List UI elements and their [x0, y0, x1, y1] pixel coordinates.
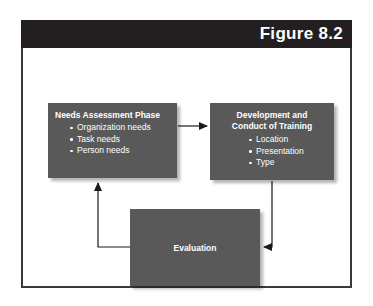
diagram-canvas: Needs Assessment Phase Organization need… — [21, 48, 352, 288]
list-item: Organization needs — [69, 122, 177, 134]
box-evaluation-title: Evaluation — [130, 243, 260, 253]
list-item: Location — [248, 134, 334, 146]
figure-header-band: Figure 8.2 — [21, 20, 352, 48]
box-development-training: Development and Conduct of Training Loca… — [210, 103, 334, 180]
figure-frame: Figure 8.2 — [21, 20, 352, 290]
list-item: Task needs — [69, 134, 177, 146]
box-development-training-title-line1: Development and — [210, 110, 334, 121]
box-needs-assessment-bullets: Organization needs Task needs Person nee… — [69, 122, 177, 157]
box-needs-assessment: Needs Assessment Phase Organization need… — [48, 103, 177, 178]
arrow-evaluation-to-needs — [98, 183, 130, 247]
arrow-development-to-evaluation — [264, 181, 272, 247]
figure-number-label: Figure 8.2 — [260, 23, 343, 45]
box-evaluation: Evaluation — [130, 209, 260, 286]
list-item: Presentation — [248, 146, 334, 158]
box-needs-assessment-title: Needs Assessment Phase — [55, 110, 177, 121]
figure-container: Figure 8.2 — [0, 0, 373, 306]
list-item: Person needs — [69, 145, 177, 157]
box-development-training-bullets: Location Presentation Type — [248, 134, 334, 169]
box-development-training-title-line2: Conduct of Training — [210, 121, 334, 132]
list-item: Type — [248, 157, 334, 169]
